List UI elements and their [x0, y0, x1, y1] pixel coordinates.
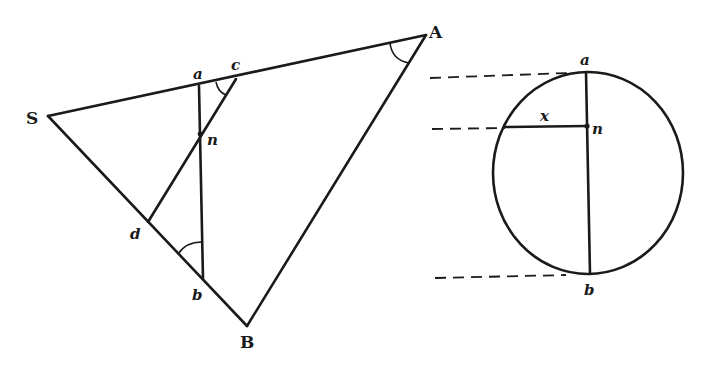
geometry-figure: S A B a c n d b a n b x [0, 0, 712, 379]
inner-segments [148, 79, 236, 279]
label-A: A [428, 22, 443, 42]
segment-cd [148, 79, 236, 222]
circle-labels: a n b x [539, 51, 603, 299]
label-b: b [192, 286, 203, 304]
side-AB [247, 35, 426, 326]
label-c: c [231, 56, 240, 74]
diagram-canvas: S A B a c n d b a n b x [0, 0, 712, 379]
angle-arc-c [216, 82, 226, 95]
dashed-line-b [435, 275, 566, 278]
circle-label-n: n [592, 120, 603, 138]
dashed-line-a [430, 73, 568, 78]
circle-label-b: b [584, 281, 595, 299]
segment-ab [199, 86, 203, 279]
point-n-dot [198, 132, 203, 137]
circle-point-n-dot [584, 123, 589, 128]
dashed-line-n [432, 128, 505, 129]
label-d: d [130, 225, 141, 243]
angle-arc-b [178, 242, 202, 254]
chord-label-x: x [539, 107, 550, 125]
angle-arc-A [390, 43, 409, 63]
circle-section [493, 72, 683, 274]
circle-label-a: a [580, 51, 590, 69]
label-S: S [26, 108, 38, 128]
diameter-ab [586, 72, 590, 274]
label-n: n [207, 131, 218, 149]
projection-lines [430, 73, 568, 278]
label-B: B [240, 332, 254, 352]
chord-x [505, 126, 587, 127]
triangle-labels: S A B a c n d b [26, 22, 443, 352]
side-SA [48, 35, 426, 116]
label-a: a [193, 65, 203, 83]
